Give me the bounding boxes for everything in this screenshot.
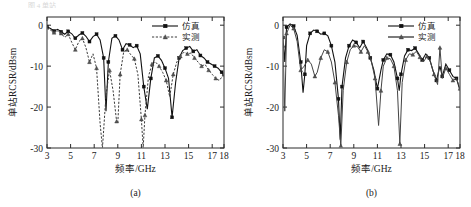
marker-square — [330, 44, 333, 47]
marker-square — [414, 47, 417, 50]
marker-triangle — [178, 54, 182, 58]
marker-square — [164, 67, 167, 70]
series-line-实测 — [283, 25, 460, 146]
marker-triangle — [379, 89, 383, 93]
y-axis-title: 单站RCSR/dBsm — [7, 47, 18, 117]
y-axis-title: 单站RCSR/dBsm — [243, 47, 254, 117]
marker-square — [220, 71, 223, 74]
marker-triangle — [125, 48, 129, 52]
x-tick-label: 18 — [219, 151, 229, 161]
x-tick-label: 11 — [373, 151, 382, 161]
marker-square — [95, 33, 98, 36]
marker-triangle — [88, 60, 92, 64]
marker-square — [156, 54, 159, 57]
marker-triangle — [398, 142, 402, 146]
marker-square — [128, 43, 131, 46]
marker-square — [88, 40, 91, 43]
marker-square — [142, 85, 145, 88]
marker-square — [74, 37, 77, 40]
x-tick-label: 17 — [207, 151, 217, 161]
marker-triangle — [438, 46, 442, 50]
marker-square — [303, 73, 306, 76]
x-tick-label: 5 — [304, 151, 309, 161]
marker-triangle — [373, 76, 377, 80]
marker-triangle — [164, 78, 168, 82]
legend-marker-square — [400, 24, 404, 28]
chart-panel-b: 357911131517180-10-20-30频率/GHz单站RCSR/dBs… — [236, 0, 471, 207]
legend-label-实测: 实测 — [182, 32, 200, 42]
legend-label-仿真: 仿真 — [418, 21, 436, 31]
x-tick-label: 11 — [137, 151, 146, 161]
x-tick-label: 13 — [160, 151, 170, 161]
legend-label-仿真: 仿真 — [182, 21, 200, 31]
chart-svg-a: 357911131517180-10-20-30频率/GHz单站RCSR/dBs… — [0, 0, 235, 207]
marker-triangle — [143, 113, 147, 117]
chart-panel-a: 357911131517180-10-20-30频率/GHz单站RCSR/dBs… — [0, 0, 235, 207]
x-tick-label: 3 — [45, 151, 50, 161]
marker-square — [121, 48, 124, 51]
marker-square — [149, 77, 152, 80]
marker-square — [107, 61, 110, 64]
marker-square — [448, 69, 451, 72]
marker-square — [362, 40, 365, 43]
panel-caption: (a) — [130, 188, 141, 199]
marker-triangle — [118, 72, 122, 76]
figure-container: 图 4 单站 357911131517180-10-20-30频率/GHz单站R… — [0, 0, 471, 207]
marker-square — [316, 30, 319, 33]
marker-square — [396, 77, 399, 80]
x-tick-label: 3 — [281, 151, 286, 161]
marker-square — [337, 97, 340, 100]
marker-square — [185, 47, 188, 50]
marker-square — [355, 41, 358, 44]
marker-square — [192, 50, 195, 53]
y-tick-label: -20 — [30, 103, 43, 113]
y-tick-label: 0 — [274, 21, 279, 31]
marker-square — [206, 61, 209, 64]
x-tick-label: 17 — [443, 151, 453, 161]
x-tick-label: 13 — [396, 151, 406, 161]
x-tick-label: 15 — [420, 151, 430, 161]
marker-square — [285, 26, 288, 29]
panel-caption: (b) — [366, 188, 377, 199]
marker-square — [348, 44, 351, 47]
marker-triangle — [306, 58, 310, 62]
marker-square — [135, 44, 138, 47]
marker-triangle — [285, 31, 289, 35]
marker-square — [102, 56, 105, 59]
marker-square — [199, 54, 202, 57]
marker-triangle — [432, 72, 436, 76]
y-tick-label: -20 — [266, 103, 279, 113]
x-tick-label: 9 — [351, 151, 356, 161]
marker-square — [213, 65, 216, 68]
marker-triangle — [319, 56, 323, 60]
y-tick-label: -30 — [266, 144, 279, 154]
marker-triangle — [171, 72, 175, 76]
legend-label-实测: 实测 — [418, 32, 436, 42]
x-axis-title: 频率/GHz — [351, 163, 392, 174]
y-tick-label: 0 — [38, 21, 43, 31]
y-tick-label: -10 — [266, 62, 279, 72]
marker-triangle — [81, 36, 85, 40]
x-tick-label: 7 — [92, 151, 97, 161]
marker-triangle — [140, 117, 144, 121]
marker-triangle — [157, 64, 161, 68]
x-tick-label: 5 — [68, 151, 73, 161]
marker-triangle — [73, 48, 77, 52]
marker-square — [400, 73, 403, 76]
y-tick-label: -30 — [30, 144, 43, 154]
x-tick-label: 9 — [115, 151, 120, 161]
marker-square — [407, 48, 410, 51]
marker-square — [81, 31, 84, 34]
x-axis-title: 频率/GHz — [115, 163, 156, 174]
x-tick-label: 15 — [184, 151, 194, 161]
legend-marker-square — [164, 24, 168, 28]
marker-square — [341, 85, 344, 88]
marker-square — [171, 116, 174, 119]
y-tick-label: -10 — [30, 62, 43, 72]
marker-triangle — [95, 66, 99, 70]
marker-square — [309, 32, 312, 35]
marker-square — [389, 53, 392, 56]
x-tick-label: 7 — [328, 151, 333, 161]
marker-square — [114, 34, 117, 37]
chart-svg-b: 357911131517180-10-20-30频率/GHz单站RCSR/dBs… — [236, 0, 471, 207]
